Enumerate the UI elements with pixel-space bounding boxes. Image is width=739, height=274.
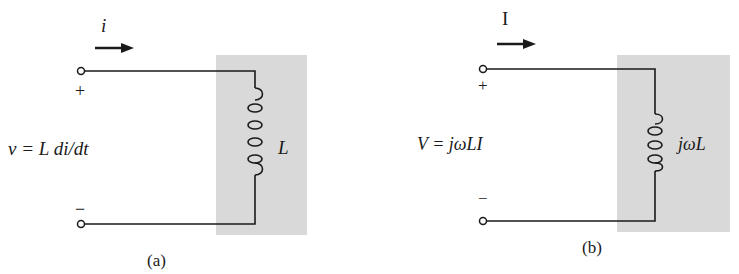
panel-b-negative-terminal-icon [480, 218, 487, 225]
panel-a-positive-terminal-icon [78, 68, 85, 75]
panel-b-plus-sign: + [478, 77, 488, 94]
panel-b-positive-terminal-icon [480, 66, 487, 73]
panel-a-caption: (a) [147, 252, 166, 269]
panel-b-current-label: I [502, 9, 508, 28]
panel-a-component-label: L [278, 138, 289, 157]
panel-b-caption: (b) [582, 239, 602, 256]
panel-a-equation: v = L di/dt [8, 139, 89, 158]
panel-a-circuit [78, 43, 308, 235]
panel-a-minus-sign: − [75, 200, 85, 218]
panel-a-plus-sign: + [75, 82, 85, 100]
panel-a-negative-terminal-icon [78, 221, 85, 228]
panel-a-current-arrow-icon [95, 43, 134, 53]
panel-a-current-label: i [101, 16, 106, 35]
panel-b-component-label: jωL [678, 135, 706, 153]
panel-b-minus-sign: − [478, 190, 488, 207]
panel-b-current-arrow-icon [497, 39, 536, 49]
panel-b-equation: V = jωLI [417, 135, 483, 153]
panel-b-shaded-region [617, 55, 730, 232]
panel-a-shaded-region [216, 55, 307, 235]
circuit-diagram [0, 0, 739, 274]
